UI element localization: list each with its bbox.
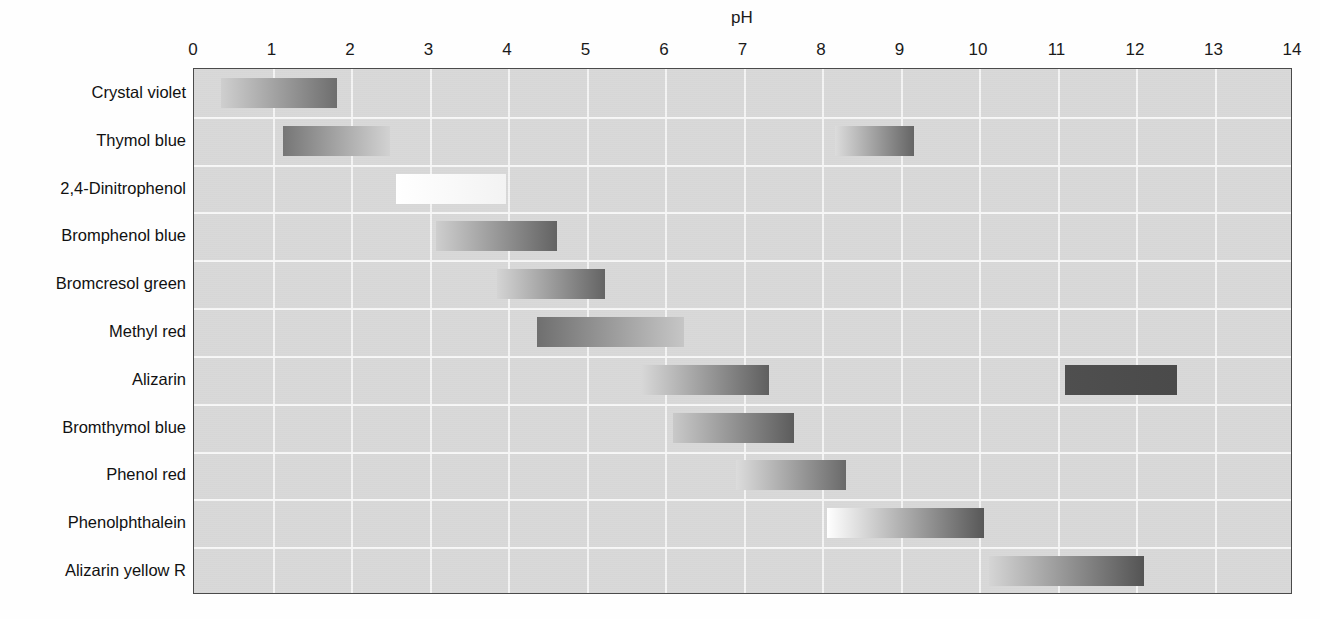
indicator-band [835,126,914,156]
horizontal-gridline [194,165,1291,167]
indicator-band [396,174,506,204]
indicator-band [673,413,794,443]
indicator-label: Methyl red [0,323,186,340]
indicator-label: Phenol red [0,466,186,483]
indicator-label: Alizarin yellow R [0,562,186,579]
horizontal-gridline [194,212,1291,214]
x-tick-label: 5 [581,40,590,60]
x-tick-label: 1 [267,40,276,60]
indicator-label: Thymol blue [0,132,186,149]
x-tick-label: 14 [1283,40,1302,60]
indicator-label: Bromcresol green [0,275,186,292]
horizontal-gridline [194,499,1291,501]
plot-area [193,68,1292,594]
indicator-band [497,269,605,299]
indicator-label: Phenolphthalein [0,514,186,531]
vertical-gridline [1058,69,1060,593]
horizontal-gridline [194,260,1291,262]
horizontal-gridline [194,117,1291,119]
horizontal-gridline [194,404,1291,406]
x-tick-label: 9 [895,40,904,60]
vertical-gridline [744,69,746,593]
indicator-label: Bromphenol blue [0,227,186,244]
x-tick-label: 13 [1204,40,1223,60]
indicator-label: Crystal violet [0,84,186,101]
x-tick-label: 2 [345,40,354,60]
x-tick-label: 4 [502,40,511,60]
indicator-band [1065,365,1177,395]
x-tick-label: 11 [1048,40,1066,60]
indicator-band [989,556,1144,586]
x-tick-label: 8 [816,40,825,60]
vertical-gridline [508,69,510,593]
indicator-band [736,460,846,490]
vertical-gridline [273,69,275,593]
x-tick-label: 10 [969,40,988,60]
vertical-gridline [822,69,824,593]
indicator-band [221,78,336,108]
vertical-gridline [1215,69,1217,593]
indicator-label: 2,4-Dinitrophenol [0,180,186,197]
vertical-gridline [430,69,432,593]
x-tick-label: 3 [424,40,433,60]
x-tick-label: 6 [659,40,668,60]
indicator-label-column: Crystal violetThymol blue2,4-Dinitrophen… [0,68,186,594]
indicator-band [537,317,684,347]
horizontal-gridline [194,452,1291,454]
horizontal-gridline [194,547,1291,549]
x-axis-tick-labels: 01234567891011121314 [0,40,1320,64]
indicator-band [283,126,391,156]
vertical-gridline [1136,69,1138,593]
horizontal-gridline [194,308,1291,310]
ph-indicator-chart: pH 01234567891011121314 Crystal violetTh… [0,0,1320,619]
indicator-label: Alizarin [0,371,186,388]
horizontal-gridline [194,356,1291,358]
x-tick-label: 7 [738,40,747,60]
indicator-label: Bromthymol blue [0,419,186,436]
indicator-band [827,508,984,538]
x-tick-label: 12 [1126,40,1145,60]
indicator-band [436,221,558,251]
indicator-band [641,365,769,395]
x-tick-label: 0 [188,40,197,60]
axis-title-text: pH [731,8,753,28]
